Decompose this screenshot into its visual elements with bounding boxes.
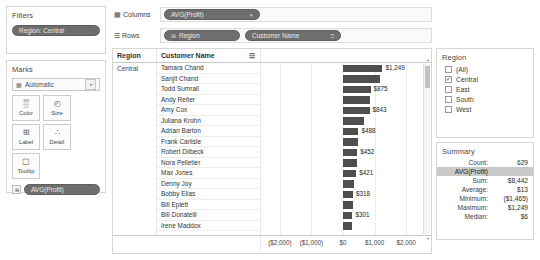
bar[interactable] (343, 107, 370, 115)
marks-measure-row: ⊞ AVG(Profit) (7, 179, 105, 195)
scroll-up-icon[interactable]: ▴ (425, 57, 430, 62)
bar-value-label: $1,249 (385, 64, 404, 71)
bar[interactable] (343, 222, 352, 230)
bar[interactable] (343, 191, 353, 199)
bar[interactable] (343, 170, 356, 178)
marks-size-label: Size (51, 110, 62, 116)
bar[interactable] (343, 75, 380, 83)
columns-shelf-dropzone[interactable]: AVG(Profit) ▾ (160, 7, 432, 22)
rows-shelf[interactable]: ☰ Rows ⊞ Region Customer Name ☲ (112, 27, 432, 44)
rows-pill-customer-name[interactable]: Customer Name ☲ (245, 30, 341, 41)
marks-tooltip-button[interactable]: ▢ Tooltip (12, 153, 40, 179)
region-value: Central (117, 65, 138, 72)
region-filter-item-label: (All) (456, 66, 468, 73)
bar[interactable] (343, 212, 352, 220)
summary-row-key: Maximum: (437, 204, 494, 211)
bar-row (261, 137, 431, 148)
summary-row-value: $1,249 (494, 204, 528, 211)
bar[interactable] (343, 117, 364, 125)
summary-row: Count:629 (437, 158, 533, 167)
checkbox-icon[interactable] (445, 96, 452, 103)
bar[interactable] (343, 86, 371, 94)
customer-name-cell[interactable]: Nora Pelletier (157, 158, 260, 169)
marks-detail-button[interactable]: ∴ Detail (43, 124, 71, 150)
filters-title: Filters (7, 7, 105, 22)
bar-row: $452 (261, 147, 431, 158)
marks-button-grid: ▒ Color ◴ Size ⊞ Label ∴ Detail ▢ Toolti… (7, 95, 105, 179)
bar-chart-inner: $1,249$875$843$488$452$421$318$301 (261, 63, 431, 235)
customer-name-cell[interactable]: Juliana Krohn (157, 116, 260, 127)
customer-name-cell[interactable]: Andy Reiter (157, 95, 260, 106)
checkbox-icon[interactable]: ✓ (445, 76, 452, 83)
customer-name-cell[interactable]: Todd Sumrall (157, 84, 260, 95)
summary-row-key: Count: (437, 159, 494, 166)
bar-chart-icon: ▩ (16, 81, 22, 88)
scroll-down-icon[interactable]: ▾ (425, 236, 430, 241)
bar[interactable] (343, 201, 353, 209)
customer-name-cell[interactable]: Denny Joy (157, 179, 260, 190)
axis-spacer (113, 236, 261, 253)
chevron-down-icon[interactable]: ▾ (244, 12, 253, 18)
label-icon[interactable]: ⊞ (12, 185, 21, 194)
tooltip-icon: ▢ (22, 158, 30, 166)
marks-measure-pill[interactable]: AVG(Profit) (24, 184, 100, 195)
region-filter-item-label: West (456, 106, 471, 113)
region-filter-item[interactable]: (All) (437, 64, 533, 74)
marks-color-button[interactable]: ▒ Color (12, 95, 40, 121)
customer-name-cell[interactable]: Adrian Barton (157, 126, 260, 137)
chevron-down-icon[interactable]: ▾ (85, 79, 96, 90)
bar-value-label: $875 (374, 85, 388, 92)
customer-name-cell[interactable]: Robert Dilbeck (157, 147, 260, 158)
bar[interactable] (343, 149, 357, 157)
checkbox-icon[interactable] (445, 86, 452, 93)
customer-name-cell[interactable]: Amy Cox (157, 105, 260, 116)
marks-size-button[interactable]: ◴ Size (43, 95, 71, 121)
bar-chart-plot: $1,249$875$843$488$452$421$318$301 (261, 63, 431, 235)
color-palette-icon: ▒ (23, 100, 29, 108)
summary-row-value: $8,442 (494, 177, 528, 184)
columns-pill-label: AVG(Profit) (171, 11, 204, 18)
customer-name-cell[interactable]: Irene Maddox (157, 221, 260, 232)
summary-row-key: AVG(Profit) (437, 168, 494, 175)
header-region[interactable]: Region (113, 49, 157, 62)
header-customer-name[interactable]: Customer Name ☲ (157, 49, 261, 62)
customer-name-cell[interactable]: Max Jones (157, 168, 260, 179)
region-filter-item[interactable]: West (437, 104, 533, 114)
region-filter-item[interactable]: ✓Central (437, 74, 533, 84)
bar[interactable] (343, 96, 370, 104)
marks-label-button[interactable]: ⊞ Label (12, 124, 40, 150)
bar[interactable] (343, 180, 354, 188)
bar[interactable] (343, 159, 357, 167)
region-filter-item[interactable]: South (437, 94, 533, 104)
columns-pill-avg-profit[interactable]: AVG(Profit) ▾ (164, 9, 260, 20)
region-filter-item-label: East (456, 86, 470, 93)
rows-shelf-dropzone[interactable]: ⊞ Region Customer Name ☲ (160, 28, 432, 43)
bar-row: $421 (261, 168, 431, 179)
bar-row (261, 116, 431, 127)
customer-name-cell[interactable]: Bill Donatelli (157, 210, 260, 221)
customer-name-cell[interactable]: Bill Eplett (157, 200, 260, 211)
columns-shelf[interactable]: ▦ Columns AVG(Profit) ▾ (112, 6, 432, 23)
sort-icon[interactable]: ☲ (324, 33, 334, 39)
scrollbar-thumb[interactable] (425, 66, 430, 88)
customer-name-column: Tamara ChandSanjit ChandTodd SumrallAndy… (157, 63, 261, 235)
x-axis: ($2,000)($1,000)$0$1,000$2,000 (113, 235, 431, 253)
checkbox-icon[interactable] (445, 66, 452, 73)
filter-pill-region[interactable]: Region: Central (12, 25, 100, 36)
checkbox-icon[interactable] (445, 106, 452, 113)
detail-icon: ∴ (55, 129, 60, 137)
bar[interactable] (343, 138, 358, 146)
vertical-scrollbar[interactable]: ▴ ▾ (423, 64, 430, 234)
marks-card: Marks ▩ Automatic ▾ ▒ Color ◴ Size ⊞ Lab… (6, 60, 106, 193)
rows-pill-region[interactable]: ⊞ Region (164, 30, 240, 41)
customer-name-cell[interactable]: Frank Carlisle (157, 137, 260, 148)
bar[interactable] (343, 65, 382, 73)
customer-name-cell[interactable]: Tamara Chand (157, 63, 260, 74)
bar[interactable] (343, 128, 358, 136)
customer-name-cell[interactable]: Sanjit Chand (157, 74, 260, 85)
region-filter-item[interactable]: East (437, 84, 533, 94)
mark-type-dropdown[interactable]: ▩ Automatic ▾ (12, 78, 100, 91)
customer-name-cell[interactable]: Bobby Elias (157, 189, 260, 200)
region-filter-items: (All)✓CentralEastSouthWest (437, 64, 533, 114)
sort-descending-icon[interactable]: ☲ (249, 52, 255, 60)
